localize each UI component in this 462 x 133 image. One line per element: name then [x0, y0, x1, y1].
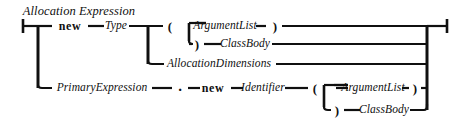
- arglist2-bracket-elbow: [324, 107, 331, 110]
- nonterminal-class-body-2: ClassBody: [359, 104, 409, 116]
- nonterminal-argument-list-1: ArgumentList: [193, 20, 256, 32]
- token-new-1: new: [59, 20, 81, 32]
- nonterminal-primary-expression: PrimaryExpression: [57, 82, 148, 94]
- allocation-expression-railroad-diagram: Allocation Expression new Type ( Argumen…: [0, 0, 462, 133]
- nonterminal-type: Type: [105, 20, 127, 32]
- token-dot: .: [178, 79, 182, 94]
- token-rparen-2: ): [195, 38, 199, 51]
- token-rparen-4: ): [335, 104, 339, 117]
- token-lparen-2: (: [313, 82, 317, 95]
- classbody2-to-right-rail: [410, 104, 427, 110]
- nonterminal-allocation-dimensions: AllocationDimensions: [167, 58, 271, 70]
- nonterminal-class-body-1: ClassBody: [220, 38, 270, 50]
- nonterminal-identifier: Identifier: [241, 82, 285, 94]
- allocdim-elbow: [148, 61, 164, 64]
- token-new-2: new: [202, 82, 224, 94]
- nonterminal-argument-list-2: ArgumentList: [341, 82, 404, 94]
- token-rparen-1: ): [273, 20, 277, 33]
- left-rail-bottom-elbow: [38, 85, 52, 88]
- token-rparen-3: ): [413, 82, 417, 95]
- token-lparen-1: (: [168, 20, 172, 33]
- diagram-title: Allocation Expression: [23, 5, 135, 18]
